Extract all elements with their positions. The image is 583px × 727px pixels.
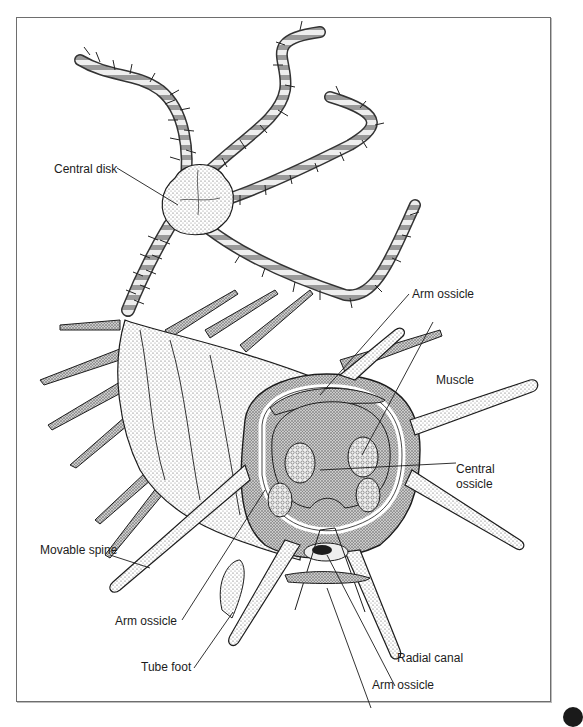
muscle-upper-left	[285, 443, 315, 483]
label-radial-canal: Radial canal	[397, 651, 463, 665]
muscle-lower-right	[356, 478, 380, 512]
label-arm-ossicle-left: Arm ossicle	[115, 614, 177, 628]
corner-mark-icon	[563, 707, 583, 727]
muscle-upper-right	[348, 437, 378, 477]
label-central-ossicle-line1: Central	[456, 462, 495, 476]
label-tube-foot: Tube foot	[141, 660, 191, 674]
label-central-ossicle-line2: ossicle	[456, 477, 493, 491]
label-arm-ossicle-top: Arm ossicle	[412, 287, 474, 301]
muscle-lower-left	[268, 483, 292, 517]
central-disk-shape	[162, 165, 233, 235]
label-muscle: Muscle	[436, 373, 474, 387]
label-movable-spine: Movable spine	[40, 543, 117, 557]
label-arm-ossicle-bottom: Arm ossicle	[372, 678, 434, 692]
label-central-disk: Central disk	[54, 162, 117, 176]
arm-spines	[84, 21, 419, 308]
